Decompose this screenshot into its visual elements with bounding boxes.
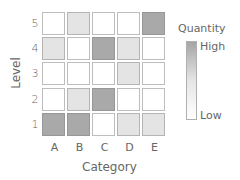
heatmap-cell-a-1 — [42, 113, 65, 136]
x-axis-label: Category — [82, 160, 132, 174]
heatmap-grid — [42, 12, 167, 138]
heatmap-cell-b-4 — [67, 37, 90, 60]
heatmap-cell-b-1 — [67, 113, 90, 136]
heatmap-cell-e-3 — [142, 62, 165, 85]
y-tick-3: 3 — [30, 68, 40, 80]
heatmap-cell-d-1 — [117, 113, 140, 136]
heatmap-cell-d-5 — [117, 12, 140, 35]
heatmap-cell-e-2 — [142, 88, 165, 111]
x-tick-a: A — [43, 142, 66, 154]
legend-high-label: High — [200, 40, 225, 53]
heatmap-cell-c-3 — [92, 62, 115, 85]
y-axis-label: Level — [9, 53, 23, 93]
heatmap-cell-e-1 — [142, 113, 165, 136]
heatmap-cell-d-2 — [117, 88, 140, 111]
x-tick-e: E — [143, 142, 166, 154]
heatmap-cell-c-1 — [92, 113, 115, 136]
y-tick-5: 5 — [30, 18, 40, 30]
heatmap-cell-b-3 — [67, 62, 90, 85]
heatmap-cell-a-3 — [42, 62, 65, 85]
x-tick-d: D — [118, 142, 141, 154]
heatmap-cell-a-4 — [42, 37, 65, 60]
y-tick-1: 1 — [30, 119, 40, 131]
heatmap-cell-c-4 — [92, 37, 115, 60]
heatmap-cell-d-3 — [117, 62, 140, 85]
heatmap-cell-e-5 — [142, 12, 165, 35]
heatmap-cell-a-2 — [42, 88, 65, 111]
heatmap-cell-d-4 — [117, 37, 140, 60]
x-tick-b: B — [68, 142, 91, 154]
legend-color-bar — [186, 41, 197, 120]
heatmap-cell-b-5 — [67, 12, 90, 35]
y-tick-2: 2 — [30, 94, 40, 106]
heatmap-cell-c-2 — [92, 88, 115, 111]
x-tick-c: C — [93, 142, 116, 154]
heatmap-cell-a-5 — [42, 12, 65, 35]
legend-title: Quantity — [178, 22, 226, 35]
heatmap-cell-c-5 — [92, 12, 115, 35]
heatmap-cell-e-4 — [142, 37, 165, 60]
y-tick-4: 4 — [30, 43, 40, 55]
heatmap-cell-b-2 — [67, 88, 90, 111]
legend-low-label: Low — [200, 109, 222, 122]
